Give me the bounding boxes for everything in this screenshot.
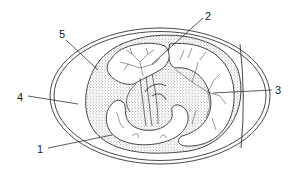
- label-2: 2: [205, 11, 211, 22]
- label-5: 5: [59, 29, 65, 40]
- label-4: 4: [17, 92, 23, 103]
- leader-line-1: [48, 135, 112, 148]
- diagram-canvas: [0, 0, 294, 182]
- label-1: 1: [37, 144, 43, 155]
- leader-line-5: [66, 40, 98, 70]
- egg-embryo-diagram: 1 2 3 4 5: [0, 0, 294, 182]
- label-3: 3: [275, 85, 281, 96]
- leader-line-4: [28, 96, 78, 104]
